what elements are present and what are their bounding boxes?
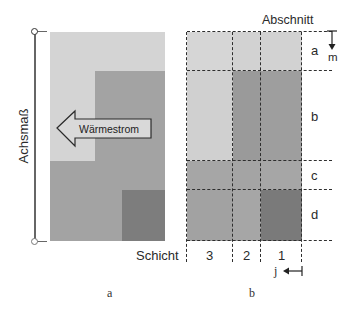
caption-b: b xyxy=(249,286,255,301)
layer-direction-label: j xyxy=(274,265,277,277)
layer-direction-arrow-icon xyxy=(0,0,353,312)
